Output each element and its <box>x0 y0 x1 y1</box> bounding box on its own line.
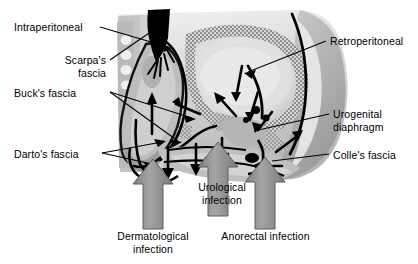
label-dartos-fascia: Darto's fascia <box>14 148 79 160</box>
label-retroperitoneal: Retroperitoneal <box>330 35 403 47</box>
label-urogenital-diaphragm: Urogenital diaphragm <box>333 108 418 133</box>
label-scarpas-fascia: Scarpa's fascia <box>23 54 106 79</box>
label-scarpas-fascia-line1: Scarpa's <box>23 54 106 67</box>
anatomy-figure: Intraperitoneal Scarpa's fascia Buck's f… <box>0 0 418 264</box>
label-colles-fascia: Colle's fascia <box>333 149 396 161</box>
label-scarpas-fascia-line2: fascia <box>23 67 106 80</box>
label-dermatological-infection-line2: infection <box>104 243 202 256</box>
label-urogenital-diaphragm-line2: diaphragm <box>333 121 418 134</box>
label-intraperitoneal: Intraperitoneal <box>14 21 83 33</box>
label-dermatological-infection: Dermatological infection <box>104 230 202 255</box>
label-urological-infection: Urological infection <box>185 181 259 206</box>
label-anorectal-infection: Anorectal infection <box>213 230 318 242</box>
label-urogenital-diaphragm-line1: Urogenital <box>333 108 418 121</box>
label-dermatological-infection-line1: Dermatological <box>104 230 202 243</box>
label-urological-infection-line1: Urological <box>185 181 259 194</box>
label-urological-infection-line2: infection <box>185 194 259 207</box>
label-bucks-fascia: Buck's fascia <box>14 87 76 99</box>
